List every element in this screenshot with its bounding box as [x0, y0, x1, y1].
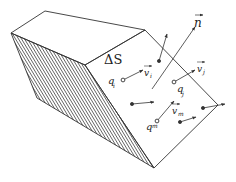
svg-text:v: v — [144, 68, 149, 78]
charge-label-j: q j — [177, 83, 184, 98]
particle-i — [121, 70, 143, 82]
velocity-arrow-j — [174, 70, 195, 82]
svg-text:m: m — [178, 110, 184, 117]
velocity-arrow-p4 — [203, 104, 225, 108]
prism-top-face — [11, 11, 145, 65]
charge-dot-p3 — [178, 120, 181, 123]
normal-vector-label: n — [194, 15, 203, 30]
svg-text:v: v — [197, 64, 202, 74]
velocity-arrow-p2 — [132, 102, 154, 104]
svg-text:n: n — [194, 16, 202, 30]
surface-delta-s — [85, 30, 218, 168]
svg-text:i: i — [150, 72, 152, 79]
charge-dot-p1 — [157, 59, 160, 62]
svg-text:i: i — [113, 82, 115, 89]
velocity-arrow-p1 — [159, 34, 167, 61]
particle-p4 — [201, 104, 225, 110]
particle-p2 — [130, 102, 154, 106]
charge-dot-p4 — [201, 106, 204, 109]
charge-dot-j — [172, 80, 176, 84]
surface-label: ΔS — [104, 52, 122, 67]
velocity-label-j: v j — [197, 62, 205, 76]
charge-label-m: q m — [146, 121, 158, 132]
charge-dot-p2 — [130, 102, 133, 105]
particle-p3 — [178, 117, 196, 124]
velocity-arrow-p3 — [180, 117, 196, 122]
velocity-label-m: v m — [172, 104, 184, 117]
normal-vector-arrow — [152, 27, 195, 89]
velocity-arrow-i — [123, 70, 143, 80]
charge-dot-i — [121, 78, 125, 82]
svg-text:m: m — [152, 122, 158, 129]
charge-label-i: q i — [108, 75, 115, 89]
flux-diagram: ΔS n q i v i q j v j q — [0, 0, 236, 182]
svg-text:v: v — [172, 106, 177, 116]
velocity-label-i: v i — [144, 66, 152, 79]
particle-j — [172, 70, 195, 84]
